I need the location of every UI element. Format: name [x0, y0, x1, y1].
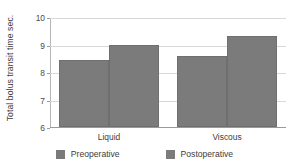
legend-item-postoperative[interactable]: Postoperative — [166, 149, 234, 159]
x-axis-label-viscous: Viscous — [212, 132, 241, 142]
x-axis-line — [50, 127, 286, 128]
y-axis-tick-mark — [47, 128, 50, 129]
gridline — [50, 18, 286, 19]
y-axis-tick-label: 9 — [40, 41, 45, 49]
y-axis-title-text: Total bolus transit time sec. — [5, 14, 15, 121]
legend-label: Postoperative — [181, 149, 234, 159]
y-axis-tick-mark — [47, 18, 50, 19]
y-axis-tick-mark — [47, 46, 50, 47]
chart-legend: PreoperativePostoperative — [0, 149, 289, 159]
bar-viscous-preoperative — [177, 56, 227, 128]
plot-area: 109876 — [50, 18, 286, 128]
y-axis-tick-label: 6 — [40, 124, 45, 132]
y-axis-tick-label: 10 — [36, 14, 45, 22]
y-axis-tick-label: 8 — [40, 69, 45, 77]
bar-liquid-postoperative — [109, 45, 159, 128]
legend-swatch-icon — [166, 150, 175, 159]
bar-viscous-postoperative — [227, 36, 277, 127]
bar-chart: Total bolus transit time sec. 109876 Liq… — [0, 0, 289, 168]
legend-swatch-icon — [56, 150, 65, 159]
legend-item-preoperative[interactable]: Preoperative — [56, 149, 120, 159]
bar-liquid-preoperative — [59, 60, 109, 127]
y-axis-title: Total bolus transit time sec. — [0, 0, 20, 135]
y-axis-tick-mark — [47, 101, 50, 102]
x-axis-label-liquid: Liquid — [98, 132, 120, 142]
legend-label: Preoperative — [71, 149, 120, 159]
y-axis-tick-label: 7 — [40, 96, 45, 104]
y-axis-tick-mark — [47, 73, 50, 74]
